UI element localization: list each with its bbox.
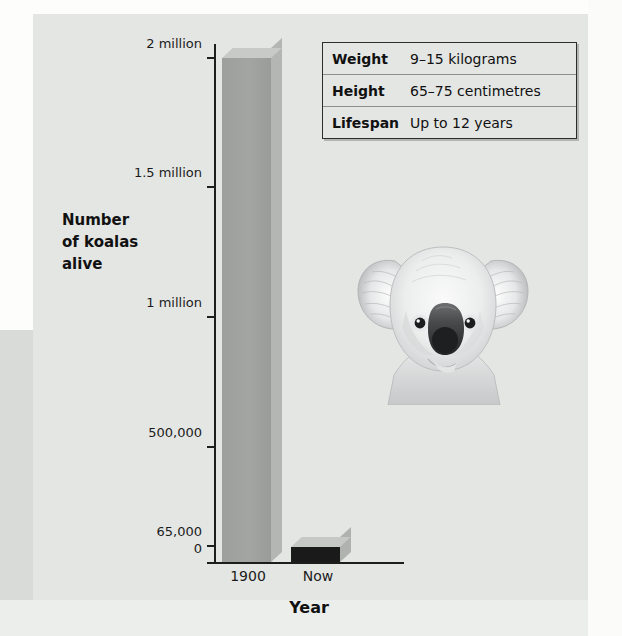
y-tick-label-1-5-million: 1.5 million: [134, 165, 202, 180]
koala-head-illustration: [350, 225, 536, 405]
x-category-label-1900: 1900: [213, 568, 283, 584]
fact-row-weight: Weight 9–15 kilograms: [323, 43, 576, 75]
fact-value-height: 65–75 centimetres: [410, 83, 541, 99]
y-tick-label-2-million: 2 million: [146, 36, 202, 51]
fact-key-lifespan: Lifespan: [332, 115, 410, 131]
fact-key-weight: Weight: [332, 51, 410, 67]
y-axis-title-line-1: Number: [62, 210, 192, 232]
y-axis-line: [214, 44, 216, 564]
y-tick-mark-65000: [207, 545, 214, 547]
y-tick-mark-1-million: [207, 316, 214, 318]
y-tick-label-500000: 500,000: [148, 425, 202, 440]
bar-1900-side-face: [271, 38, 282, 562]
x-axis-line: [214, 562, 404, 564]
fact-table: Weight 9–15 kilograms Height 65–75 centi…: [322, 42, 577, 139]
y-tick-label-65000: 65,000: [157, 524, 203, 539]
fact-row-lifespan: Lifespan Up to 12 years: [323, 107, 576, 138]
bar-1900-front-face: [222, 58, 271, 562]
y-tick-mark-500000: [207, 446, 214, 448]
chart-panel: 2 million 1.5 million 1 million 500,000 …: [33, 14, 588, 600]
y-tick-label-0: 0: [194, 541, 202, 556]
bar-now[interactable]: [291, 547, 340, 562]
y-axis-title: Number of koalas alive: [62, 210, 192, 275]
y-tick-mark-0: [207, 562, 214, 564]
y-axis-title-line-3: alive: [62, 254, 192, 276]
y-tick-mark-1-5-million: [207, 186, 214, 188]
fact-value-lifespan: Up to 12 years: [410, 115, 513, 131]
fact-key-height: Height: [332, 83, 410, 99]
x-category-label-now: Now: [283, 568, 353, 584]
y-tick-mark-2-million: [207, 57, 214, 59]
backdrop-band-right: [588, 0, 622, 636]
fact-row-height: Height 65–75 centimetres: [323, 75, 576, 107]
bar-1900[interactable]: [222, 58, 271, 562]
y-tick-label-1-million: 1 million: [146, 295, 202, 310]
x-axis-title: Year: [214, 598, 404, 617]
bar-now-front-face: [291, 547, 340, 562]
koala-left-eye: [411, 315, 430, 332]
fact-value-weight: 9–15 kilograms: [410, 51, 517, 67]
y-axis-title-line-2: of koalas: [62, 232, 192, 254]
backdrop-band-left: [0, 330, 33, 636]
